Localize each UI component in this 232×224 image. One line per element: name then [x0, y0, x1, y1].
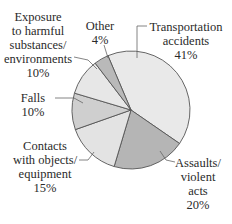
label-line: equipment — [13, 167, 77, 181]
label-other: Other 4% — [86, 19, 114, 47]
label-line: Falls — [21, 91, 45, 105]
label-value: 10% — [21, 105, 45, 119]
label-contacts: Contacts with objects/ equipment 15% — [13, 139, 77, 195]
label-line: Other — [86, 19, 114, 33]
label-value: 15% — [13, 181, 77, 195]
label-line: substances/ — [4, 38, 72, 52]
label-line: Transportation — [149, 20, 222, 34]
label-falls: Falls 10% — [21, 91, 45, 119]
label-transportation: Transportation accidents 41% — [149, 20, 222, 62]
label-line: acts — [175, 184, 221, 198]
label-line: Assaults/ — [175, 156, 221, 170]
label-value: 4% — [86, 33, 114, 47]
label-line: with objects/ — [13, 153, 77, 167]
label-line: to harmful — [4, 24, 72, 38]
label-exposure: Exposure to harmful substances/ environm… — [4, 10, 72, 80]
label-line: accidents — [149, 34, 222, 48]
label-value: 41% — [149, 48, 222, 62]
label-line: Contacts — [13, 139, 77, 153]
label-line: violent — [175, 170, 221, 184]
label-value: 10% — [4, 66, 72, 80]
label-assaults: Assaults/ violent acts 20% — [175, 156, 221, 212]
label-value: 20% — [175, 198, 221, 212]
label-line: Exposure — [4, 10, 72, 24]
pie-slices — [72, 51, 190, 169]
label-line: environments — [4, 52, 72, 66]
